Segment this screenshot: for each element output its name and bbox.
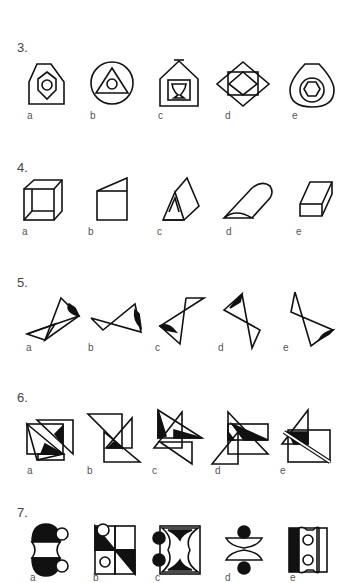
q5-figure-c[interactable] — [158, 296, 206, 348]
q3-option-d[interactable]: d — [225, 110, 231, 121]
q5-figure-d[interactable] — [222, 292, 266, 350]
q5-option-e[interactable]: e — [283, 342, 289, 353]
q7-option-b[interactable]: b — [93, 572, 99, 583]
q7-figure-d[interactable] — [222, 524, 268, 576]
q4-figure-e[interactable] — [298, 180, 334, 220]
q5-option-c[interactable]: c — [155, 342, 160, 353]
question-number-3: 3. — [17, 40, 28, 55]
q5-option-b[interactable]: b — [88, 342, 94, 353]
q7-option-d[interactable]: d — [225, 572, 231, 583]
q4-figure-a[interactable] — [22, 178, 64, 222]
q6-figure-b[interactable] — [86, 412, 142, 464]
q4-figure-d[interactable] — [222, 180, 274, 222]
question-number-6: 6. — [17, 390, 28, 405]
q3-option-b[interactable]: b — [90, 110, 96, 121]
q4-figure-c[interactable] — [161, 176, 201, 222]
q6-option-b[interactable]: b — [87, 465, 93, 476]
q6-figure-c[interactable] — [152, 408, 204, 466]
q5-figure-b[interactable] — [89, 300, 149, 334]
q4-option-e[interactable]: e — [296, 226, 302, 237]
q6-option-e[interactable]: e — [280, 465, 286, 476]
q3-figure-b[interactable] — [89, 60, 135, 106]
q7-option-e[interactable]: e — [290, 572, 296, 583]
q5-option-a[interactable]: a — [26, 342, 32, 353]
q5-option-d[interactable]: d — [218, 342, 224, 353]
q7-figure-c[interactable] — [152, 524, 202, 576]
q3-option-e[interactable]: e — [292, 110, 298, 121]
q7-option-a[interactable]: a — [30, 572, 36, 583]
q7-option-c[interactable]: c — [155, 572, 160, 583]
q6-option-c[interactable]: c — [152, 465, 157, 476]
q3-option-a[interactable]: a — [27, 110, 33, 121]
q6-figure-a[interactable] — [25, 418, 77, 462]
q3-figure-e[interactable] — [288, 62, 336, 110]
q6-option-a[interactable]: a — [27, 465, 33, 476]
q5-figure-e[interactable] — [289, 290, 335, 350]
q4-option-b[interactable]: b — [88, 226, 94, 237]
q5-figure-a[interactable] — [25, 296, 81, 342]
q4-option-a[interactable]: a — [22, 226, 28, 237]
q6-figure-d[interactable] — [210, 410, 270, 466]
q7-figure-a[interactable] — [30, 522, 70, 576]
q3-option-c[interactable]: c — [158, 110, 163, 121]
q4-figure-b[interactable] — [95, 176, 129, 222]
q3-figure-a[interactable] — [27, 62, 67, 106]
q7-figure-b[interactable] — [93, 522, 137, 576]
q4-option-c[interactable]: c — [157, 226, 162, 237]
question-number-4: 4. — [17, 160, 28, 175]
q6-figure-e[interactable] — [280, 408, 332, 464]
q4-option-d[interactable]: d — [226, 226, 232, 237]
q7-figure-e[interactable] — [287, 524, 329, 576]
q3-figure-d[interactable] — [215, 60, 271, 108]
question-number-5: 5. — [17, 275, 28, 290]
question-number-7: 7. — [17, 505, 28, 520]
q6-option-d[interactable]: d — [215, 465, 221, 476]
q3-figure-c[interactable] — [158, 58, 200, 108]
